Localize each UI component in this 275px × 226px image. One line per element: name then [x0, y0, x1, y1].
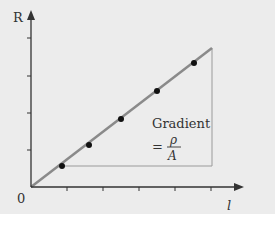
data-point — [118, 116, 124, 122]
data-point — [154, 88, 160, 94]
x-axis-arrow-icon — [234, 183, 244, 191]
y-axis-label: R — [13, 10, 24, 25]
gradient-denominator: A — [167, 149, 177, 163]
gradient-equals: = — [152, 139, 163, 154]
gradient-numerator: ρ — [169, 133, 177, 147]
y-axis-arrow-icon — [27, 10, 35, 20]
data-point — [191, 60, 197, 66]
data-point — [86, 142, 92, 148]
origin-label: 0 — [17, 191, 25, 206]
resistance-length-graph: R 0 l Gradient = ρ A — [0, 0, 275, 226]
gradient-label: Gradient — [152, 116, 211, 131]
data-point — [59, 163, 65, 169]
x-axis-label: l — [227, 198, 231, 213]
